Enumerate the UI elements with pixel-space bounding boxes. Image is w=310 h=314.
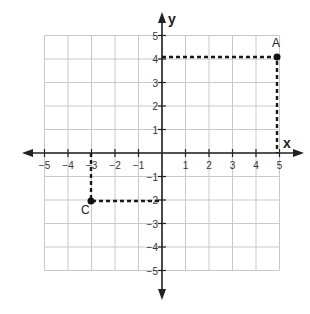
coordinate-plane: y x −5−4−3−2−11234554321−1−2−3−4−5 A C xyxy=(0,0,310,314)
x-tick-label: 3 xyxy=(230,160,236,171)
x-tick-label: −2 xyxy=(109,160,121,171)
x-tick-label: 5 xyxy=(277,160,283,171)
y-axis-label: y xyxy=(168,11,176,27)
y-tick-label: −5 xyxy=(147,266,159,277)
x-tick-label: −4 xyxy=(62,160,74,171)
y-tick-label: −4 xyxy=(147,242,159,253)
point-c-label: C xyxy=(81,203,90,217)
y-tick-label: 4 xyxy=(152,54,158,65)
y-tick-label: 5 xyxy=(152,31,158,42)
point-a-projection xyxy=(162,57,277,153)
x-tick-label: 2 xyxy=(206,160,212,171)
x-axis-left-arrow-icon xyxy=(22,149,33,157)
x-tick-label: 1 xyxy=(183,160,189,171)
x-tick-label: −5 xyxy=(39,160,51,171)
y-tick-label: 1 xyxy=(152,125,158,136)
y-tick-label: −1 xyxy=(147,172,159,183)
y-axis-up-arrow-icon xyxy=(158,12,166,23)
x-axis-label: x xyxy=(283,135,291,151)
x-tick-label: 4 xyxy=(253,160,259,171)
axes: y x xyxy=(22,11,304,300)
y-axis-down-arrow-icon xyxy=(158,289,166,300)
y-tick-label: 2 xyxy=(152,101,158,112)
x-tick-label: −1 xyxy=(133,160,145,171)
y-tick-label: −3 xyxy=(147,219,159,230)
point-a xyxy=(274,54,281,61)
y-tick-label: 3 xyxy=(152,78,158,89)
x-axis-right-arrow-icon xyxy=(293,149,304,157)
point-a-label: A xyxy=(272,36,280,50)
points: A C xyxy=(81,36,281,217)
